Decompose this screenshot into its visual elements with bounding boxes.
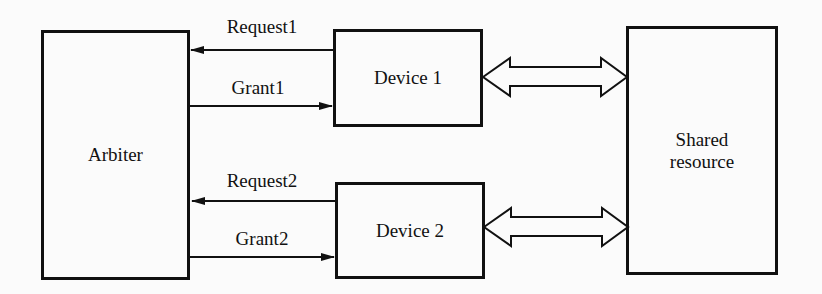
arbiter-label: Arbiter [88, 144, 143, 166]
grant2-label: Grant2 [236, 229, 289, 249]
arbiter-block: Arbiter [41, 30, 190, 280]
shared-resource-label: Shared resource [670, 129, 734, 173]
shared-resource-block: Shared resource [626, 26, 778, 275]
request1-label: Request1 [227, 17, 298, 37]
device1-block: Device 1 [333, 29, 483, 127]
bus2-double-arrow [484, 208, 628, 246]
device2-label: Device 2 [376, 220, 444, 242]
request2-label: Request2 [227, 171, 298, 191]
grant1-label: Grant1 [232, 78, 285, 98]
shared-resource-label-line2: resource [670, 151, 734, 173]
shared-resource-label-line1: Shared [670, 129, 734, 151]
device1-label: Device 1 [374, 67, 442, 89]
device2-block: Device 2 [335, 182, 485, 279]
bus1-double-arrow [483, 58, 627, 96]
